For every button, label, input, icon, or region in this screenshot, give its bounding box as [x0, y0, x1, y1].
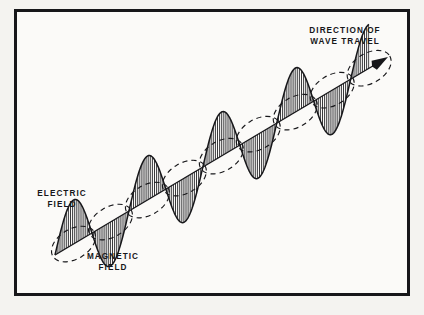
direction-label-line2: WAVE TRAVEL	[310, 37, 379, 46]
magnetic-label-line2: FIELD	[99, 263, 128, 272]
magnetic-label-line1: MAGNETIC	[87, 252, 139, 261]
figure-paper	[14, 9, 410, 296]
electric-label-line2: FIELD	[48, 200, 77, 209]
em-wave-figure: DIRECTION OF WAVE TRAVEL ELECTRIC FIELD …	[0, 0, 424, 315]
direction-label-line1: DIRECTION OF	[309, 26, 380, 35]
electric-label-line1: ELECTRIC	[37, 189, 86, 198]
